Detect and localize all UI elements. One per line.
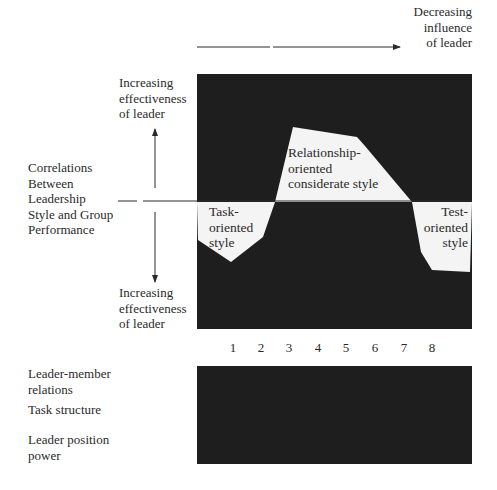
lower-effectiveness-label: Increasing effectiveness of leader — [119, 285, 187, 332]
octant-5: 5 — [339, 340, 353, 356]
octant-7: 7 — [397, 340, 411, 356]
influence-label: Decreasing influence of leader — [380, 4, 472, 51]
octant-4: 4 — [311, 340, 325, 356]
octant-2: 2 — [254, 340, 268, 356]
situation-panel — [197, 366, 472, 464]
test-style-label: Test- oriented style — [410, 204, 468, 251]
position-power-label: Leader position power — [28, 432, 109, 463]
octant-6: 6 — [368, 340, 382, 356]
relationship-style-label: Relationship- oriented considerate style — [288, 145, 378, 192]
task-structure-label: Task structure — [28, 402, 101, 418]
octant-1: 1 — [226, 340, 240, 356]
correlations-label: Correlations Between Leadership Style an… — [28, 160, 113, 238]
octant-8: 8 — [425, 340, 439, 356]
octant-3: 3 — [282, 340, 296, 356]
upper-effectiveness-label: Increasing effectiveness of leader — [119, 75, 187, 122]
leader-member-relations-label: Leader-member relations — [28, 366, 111, 397]
task-style-label: Task- oriented style — [209, 204, 253, 251]
